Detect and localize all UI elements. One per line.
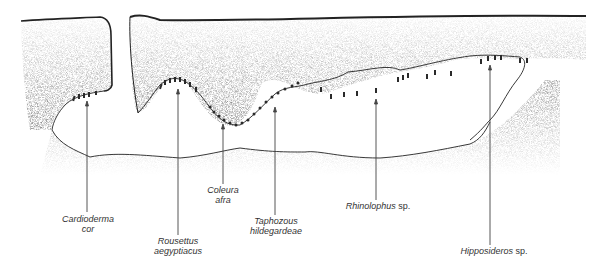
label-suffix: sp. xyxy=(398,201,410,211)
label-suffix: sp. xyxy=(516,246,528,256)
label-species: aegyptiacus xyxy=(140,246,216,256)
label-coleura-afra: Coleura afra xyxy=(198,185,248,205)
label-rhinolophus-sp: Rhinolophus sp. xyxy=(336,201,420,211)
label-genus: Cardioderma xyxy=(52,214,124,224)
label-taphozous-hildegardeae: Taphozous hildegardeae xyxy=(240,216,312,236)
label-species: hildegardeae xyxy=(240,226,312,236)
label-genus: Hipposideros xyxy=(460,246,513,256)
label-cardioderma-cor: Cardioderma cor xyxy=(52,214,124,234)
rock-ceiling-mass xyxy=(21,16,586,130)
label-hipposideros-sp: Hipposideros sp. xyxy=(452,246,536,256)
label-species: afra xyxy=(198,195,248,205)
label-species: cor xyxy=(52,224,124,234)
label-genus: Rousettus xyxy=(140,236,216,246)
rock-floor-mass xyxy=(40,80,560,175)
label-genus: Coleura xyxy=(198,185,248,195)
label-genus: Taphozous xyxy=(240,216,312,226)
label-genus: Rhinolophus xyxy=(346,201,396,211)
label-rousettus-aegyptiacus: Rousettus aegyptiacus xyxy=(140,236,216,256)
